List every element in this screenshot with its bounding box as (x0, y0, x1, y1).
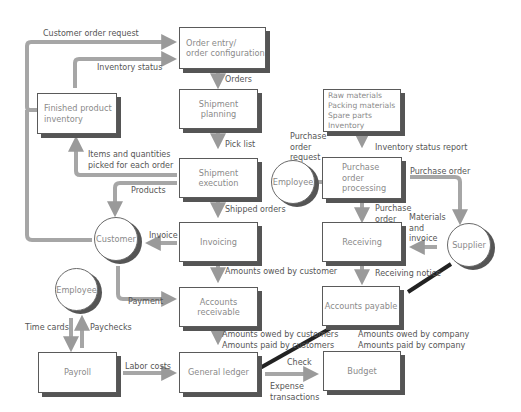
inventory-status-label: Inventory status (97, 63, 162, 74)
invoicing-label: Invoicing (200, 237, 237, 248)
budget-box: Budget (323, 351, 401, 391)
shipped-orders-label: Shipped orders (225, 205, 286, 216)
labor-costs-label: Labor costs (125, 362, 171, 373)
paychecks-label: Paychecks (90, 323, 132, 334)
purchase-order-processing-box: Purchase order processing (322, 157, 402, 199)
purchase-order-to-supplier-arrow (410, 177, 460, 218)
shipment-execution-box: Shipment execution (179, 158, 258, 198)
accounts-receivable-label: Accounts receivable (197, 297, 239, 318)
payroll-box: Payroll (38, 352, 117, 393)
time-cards-label: Time cards (25, 323, 69, 334)
accounts-receivable-box: Accounts receivable (179, 287, 258, 327)
invoicing-box: Invoicing (179, 222, 258, 262)
ap-to-budget-label: Amounts owed by company Amounts paid by … (358, 330, 469, 351)
receiving-box: Receiving (322, 222, 402, 262)
supplier-label: Supplier (452, 240, 486, 250)
budget-label: Budget (347, 366, 376, 377)
purchase-order-to-receiving-label: Purchase order (375, 204, 411, 225)
finished-inventory-box: Finished product inventory (37, 93, 117, 134)
general-ledger-box: General ledger (179, 352, 258, 393)
purchase-order-to-supplier-label: Purchase order (410, 167, 470, 178)
accounts-payable-label: Accounts payable (325, 301, 398, 312)
customer-actor: Customer (94, 217, 138, 261)
employee-actor-payroll: Employee (55, 268, 98, 311)
amounts-owed-by-customer-label: Amounts owed by customer (225, 267, 337, 278)
customer-order-request-label: Customer order request (43, 29, 139, 40)
pick-list-label: Pick list (225, 140, 255, 151)
products-label: Products (131, 186, 166, 197)
general-ledger-label: General ledger (188, 367, 249, 378)
accounts-payable-box: Accounts payable (322, 286, 400, 326)
check-label: Check (287, 358, 312, 369)
items-picked-label: Items and quantities picked for each ord… (88, 150, 173, 171)
materials-and-invoice-label: Materials and invoice (409, 213, 446, 245)
shipment-execution-label: Shipment execution (180, 168, 257, 189)
shipment-planning-label: Shipment planning (180, 99, 257, 120)
customer-label: Customer (96, 234, 136, 244)
payment-arrow (118, 266, 170, 299)
employee-payroll-label: Employee (56, 285, 97, 295)
inventory-status-report-label: Inventory status report (375, 143, 467, 154)
orders-label: Orders (225, 75, 252, 86)
finished-inventory-label: Finished product inventory (44, 103, 112, 124)
materials-inventory-label: Raw materials Packing materials Spare pa… (328, 91, 395, 131)
employee-purchasing-label: Employee (273, 177, 314, 187)
payroll-label: Payroll (64, 367, 91, 378)
materials-inventory-box: Raw materials Packing materials Spare pa… (323, 89, 401, 132)
employee-actor-purchasing: Employee (271, 160, 315, 204)
purchase-order-processing-label: Purchase order processing (342, 162, 386, 194)
receiving-label: Receiving (342, 237, 382, 248)
receiving-notice-label: Receiving notice (375, 269, 441, 280)
purchase-order-request-label: Purchase order request (290, 132, 326, 164)
invoice-label: Invoice (149, 231, 178, 242)
order-entry-label: Order entry/ order configuration (186, 38, 265, 59)
process-flow-diagram: Order entry/ order configuration Finishe… (0, 0, 521, 412)
order-entry-box: Order entry/ order configuration (179, 27, 266, 69)
supplier-actor: Supplier (447, 223, 491, 267)
payment-label: Payment (128, 297, 163, 308)
shipment-planning-box: Shipment planning (179, 89, 258, 129)
ar-to-gl-label: Amounts owed by customers Amounts paid b… (222, 330, 338, 351)
expense-transactions-label: Expense transactions (270, 382, 319, 403)
